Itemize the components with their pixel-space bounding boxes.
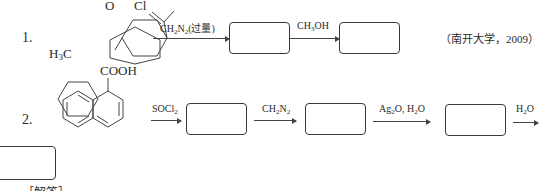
reaction-arrow <box>254 120 296 121</box>
problem-2-number: 2. <box>22 112 33 128</box>
answer-box-2a[interactable] <box>186 103 247 135</box>
reaction-arrow <box>373 121 430 122</box>
methyl-label: H3C <box>49 46 72 62</box>
answer-box-2d[interactable] <box>0 146 56 180</box>
reaction-arrow <box>290 38 339 39</box>
reagent-ch2n2-excess: CH2N2(过量) <box>160 20 215 35</box>
reaction-arrow <box>151 120 181 121</box>
answer-heading: ［解答］ <box>22 183 70 191</box>
reaction-arrow <box>153 38 229 39</box>
answer-box-1a[interactable] <box>229 22 290 54</box>
reaction-arrow <box>513 122 538 123</box>
reagent-ch3oh: CH3OH <box>297 20 329 31</box>
naphthalene-rings-icon <box>48 75 148 155</box>
answer-box-2c[interactable] <box>445 104 506 136</box>
reagent-ag2o-h2o: Ag2O, H2O <box>379 103 425 114</box>
answer-box-2b[interactable] <box>305 103 366 135</box>
chlorine-label: Cl <box>134 0 146 14</box>
reagent-h2o: H2O <box>516 103 534 114</box>
reagent-ch2n2: CH2N2 <box>262 103 290 114</box>
oxygen-label: O <box>105 0 114 14</box>
problem-1-number: 1. <box>22 30 33 46</box>
answer-box-1b[interactable] <box>339 22 400 54</box>
source-citation: （南开大学，2009） <box>440 30 539 46</box>
carboxyl-label: COOH <box>100 63 137 79</box>
reagent-socl2: SOCl2 <box>152 103 178 114</box>
